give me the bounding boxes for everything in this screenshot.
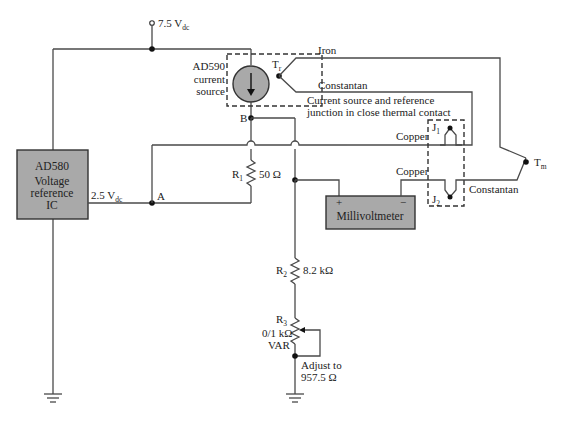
wiper-arrow-icon bbox=[299, 327, 305, 333]
svg-text:current: current bbox=[194, 73, 225, 85]
iron-label: Iron bbox=[318, 44, 337, 56]
copper-label-top: Copper bbox=[396, 130, 429, 142]
svg-text:IC: IC bbox=[46, 199, 58, 211]
resistor-r1 bbox=[247, 160, 255, 186]
svg-text:Current source and reference: Current source and reference bbox=[307, 94, 434, 106]
r3-bottom-node bbox=[292, 353, 298, 359]
svg-text:7.5 Vdc: 7.5 Vdc bbox=[158, 17, 190, 32]
svg-text:+: + bbox=[336, 196, 342, 208]
millivoltmeter: + − Millivoltmeter bbox=[326, 196, 415, 229]
svg-text:AD590: AD590 bbox=[193, 60, 226, 72]
svg-text:J1: J1 bbox=[432, 121, 440, 136]
copper-wire-top bbox=[152, 141, 347, 145]
circuit-diagram: 7.5 Vdc AD580 Voltage reference IC 2.5 V… bbox=[0, 0, 569, 421]
svg-text:VAR: VAR bbox=[268, 339, 290, 351]
svg-text:Millivoltmeter: Millivoltmeter bbox=[336, 210, 403, 222]
svg-text:−: − bbox=[400, 196, 406, 208]
svg-text:AD580: AD580 bbox=[35, 160, 69, 172]
svg-text:reference: reference bbox=[31, 187, 74, 199]
copper-label-bottom: Copper bbox=[396, 165, 429, 177]
junction-j2 bbox=[448, 195, 453, 200]
svg-text:source: source bbox=[196, 85, 225, 97]
svg-text:junction in close thermal cont: junction in close thermal contact bbox=[306, 106, 451, 118]
svg-text:R2: R2 bbox=[276, 264, 287, 279]
node-a-label: A bbox=[157, 190, 165, 202]
supply-node bbox=[149, 46, 155, 52]
svg-text:Tr: Tr bbox=[272, 58, 282, 73]
ground-symbol-right bbox=[286, 394, 304, 402]
ad580-voltage-reference: AD580 Voltage reference IC bbox=[17, 150, 88, 219]
svg-text:Tm: Tm bbox=[534, 156, 547, 171]
constantan-label-top: Constantan bbox=[318, 79, 368, 91]
supply-terminal: 7.5 Vdc bbox=[150, 17, 190, 49]
ad590-current-source bbox=[233, 66, 269, 102]
junction-j1 bbox=[448, 126, 453, 131]
output-voltage-label: 2.5 Vdc bbox=[91, 189, 123, 204]
svg-text:R1: R1 bbox=[232, 168, 243, 183]
svg-text:R3: R3 bbox=[276, 313, 287, 328]
measuring-junction-tm bbox=[523, 159, 529, 165]
resistor-r2 bbox=[291, 258, 299, 284]
ground-symbol-left bbox=[44, 394, 62, 402]
svg-text:957.5 Ω: 957.5 Ω bbox=[301, 371, 337, 383]
constantan-label-bottom: Constantan bbox=[469, 183, 519, 195]
node-b-label: B bbox=[240, 112, 247, 124]
svg-text:0/1 kΩ: 0/1 kΩ bbox=[262, 327, 292, 339]
svg-text:50 Ω: 50 Ω bbox=[259, 168, 281, 180]
svg-text:Adjust to: Adjust to bbox=[301, 359, 342, 371]
svg-text:8.2 kΩ: 8.2 kΩ bbox=[303, 264, 333, 276]
